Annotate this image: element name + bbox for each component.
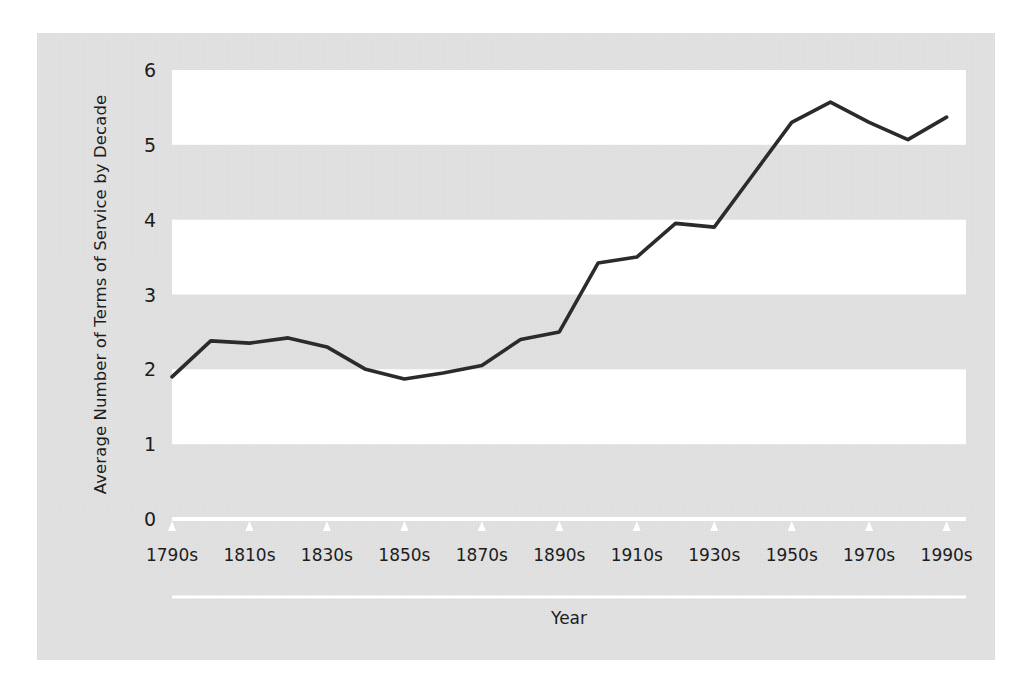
x-tick-mark-1850s (400, 521, 408, 531)
x-tick-mark-1790s (168, 521, 176, 531)
axis-rules (172, 519, 966, 597)
x-tick-mark-1970s (865, 521, 873, 531)
x-tick-mark-1870s (478, 521, 486, 531)
plot-area (0, 0, 1034, 691)
x-tick-mark-1950s (788, 521, 796, 531)
x-tick-mark-1990s (943, 521, 951, 531)
grid-band-2 (172, 70, 966, 145)
x-tick-mark-1910s (633, 521, 641, 531)
x-tick-mark-1830s (323, 521, 331, 531)
chart-figure: Average Number of Terms of Service by De… (0, 0, 1034, 691)
grid-band-1 (172, 220, 966, 295)
grid-band-0 (172, 369, 966, 444)
x-tick-mark-1890s (555, 521, 563, 531)
band-group (172, 70, 966, 444)
x-tick-marks (168, 521, 951, 531)
x-tick-mark-1930s (710, 521, 718, 531)
x-tick-mark-1810s (245, 521, 253, 531)
